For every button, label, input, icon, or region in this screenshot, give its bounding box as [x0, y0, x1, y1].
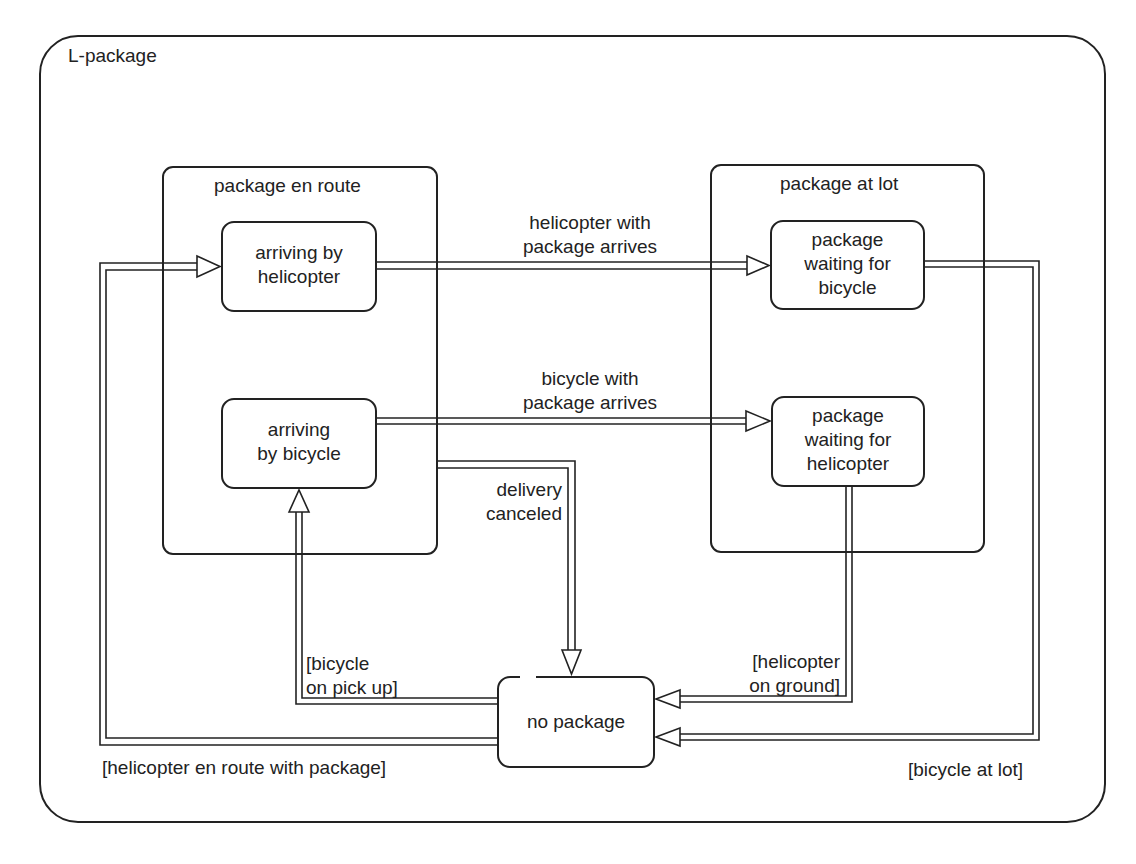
- state-arriving-by-helicopter-label: arriving by helicopter: [222, 241, 376, 289]
- state-no-package-label: no package: [498, 710, 654, 734]
- state-label-line: waiting for: [772, 428, 924, 452]
- state-label-line: arriving by: [222, 241, 376, 265]
- transition-label-line: on ground]: [680, 674, 840, 698]
- state-label-line: package: [771, 228, 924, 252]
- state-label-line: waiting for: [771, 252, 924, 276]
- state-label-line: helicopter: [772, 452, 924, 476]
- transition-label-line: [bicycle: [306, 652, 486, 676]
- transition-label-bicycle-on-pickup: [bicycle on pick up]: [306, 652, 486, 700]
- transition-label-line: package arrives: [480, 391, 700, 415]
- transition-label-helicopter-arrives: helicopter with package arrives: [480, 211, 700, 259]
- state-label-line: by bicycle: [222, 442, 376, 466]
- transition-label-line: package arrives: [480, 235, 700, 259]
- transition-label-delivery-canceled: delivery canceled: [460, 478, 562, 526]
- transition-label-line: helicopter with: [480, 211, 700, 235]
- state-package-waiting-for-helicopter-label: package waiting for helicopter: [772, 404, 924, 476]
- transition-label-line: bicycle with: [480, 367, 700, 391]
- transition-label-bicycle-at-lot: [bicycle at lot]: [908, 758, 1023, 782]
- transition-label-line: [helicopter: [680, 650, 840, 674]
- transition-label-helicopter-en-route: [helicopter en route with package]: [102, 756, 386, 780]
- composite-label-package-en-route: package en route: [214, 174, 361, 198]
- composite-package-at-lot: [711, 165, 984, 552]
- state-label-line: no package: [498, 710, 654, 734]
- state-label-line: arriving: [222, 418, 376, 442]
- transition-label-line: delivery: [460, 478, 562, 502]
- state-label-line: bicycle: [771, 276, 924, 300]
- transition-label-bicycle-arrives: bicycle with package arrives: [480, 367, 700, 415]
- state-label-line: helicopter: [222, 265, 376, 289]
- transition-label-line: on pick up]: [306, 676, 486, 700]
- outer-frame-l-package: [40, 36, 1105, 822]
- transition-label-line: canceled: [460, 502, 562, 526]
- frame-title: L-package: [68, 44, 157, 68]
- composite-label-package-at-lot: package at lot: [780, 172, 898, 196]
- state-label-line: package: [772, 404, 924, 428]
- state-diagram-canvas: [0, 0, 1136, 864]
- state-package-waiting-for-bicycle-label: package waiting for bicycle: [771, 228, 924, 300]
- transition-label-helicopter-on-ground: [helicopter on ground]: [680, 650, 840, 698]
- state-arriving-by-bicycle-label: arriving by bicycle: [222, 418, 376, 466]
